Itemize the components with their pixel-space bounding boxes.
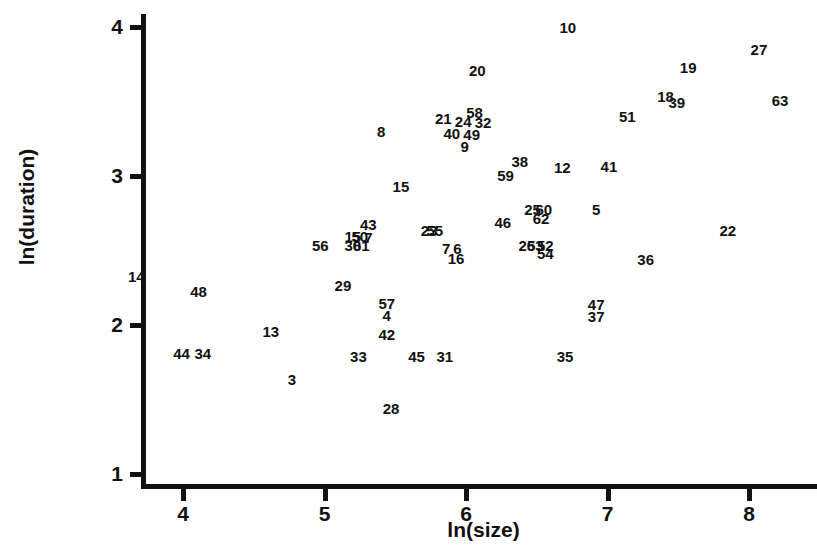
- data-point-label: 4: [383, 307, 391, 322]
- data-point-label: 55: [427, 222, 444, 237]
- x-tick-4: [181, 489, 186, 501]
- data-point-label: 34: [194, 346, 211, 361]
- data-point-label: 9: [460, 139, 468, 154]
- data-point-label: 61: [353, 237, 370, 252]
- scatter-plot-figure: 4321 45678 ln(size) ln(duration) 1027201…: [0, 0, 817, 548]
- data-point-label: 62: [533, 210, 550, 225]
- data-point-label: 31: [436, 349, 453, 364]
- data-point-label: 12: [554, 160, 571, 175]
- data-point-label: 8: [377, 124, 385, 139]
- data-point-label: 19: [680, 60, 697, 75]
- y-tick-label-4: 4: [95, 16, 123, 37]
- data-point-label: 48: [190, 283, 207, 298]
- y-tick-label-2: 2: [95, 314, 123, 335]
- data-point-label: 22: [719, 222, 736, 237]
- data-point-label: 36: [637, 252, 654, 267]
- data-point-label: 20: [469, 63, 486, 78]
- data-point-label: 37: [588, 309, 605, 324]
- data-point-label: 42: [378, 326, 395, 341]
- data-point-label: 41: [601, 158, 618, 173]
- y-tick-label-1: 1: [95, 463, 123, 484]
- y-tick-label-3: 3: [95, 165, 123, 186]
- data-point-label: 46: [494, 215, 511, 230]
- plot-data-area: [141, 14, 817, 489]
- data-point-label: 10: [560, 20, 577, 35]
- x-tick-5: [323, 489, 328, 501]
- data-point-label: 14: [128, 268, 145, 283]
- data-point-label: 5: [592, 201, 600, 216]
- data-point-label: 13: [262, 323, 279, 338]
- data-point-label: 29: [335, 277, 352, 292]
- data-point-label: 44: [173, 346, 190, 361]
- data-point-label: 35: [557, 349, 574, 364]
- data-point-label: 40: [444, 125, 461, 140]
- x-axis-title: ln(size): [0, 518, 817, 542]
- data-point-label: 28: [383, 401, 400, 416]
- data-point-label: 56: [312, 237, 329, 252]
- data-point-label: 21: [435, 110, 452, 125]
- data-point-label: 63: [772, 93, 789, 108]
- data-point-label: 27: [751, 42, 768, 57]
- data-point-label: 3: [288, 371, 296, 386]
- data-point-label: 59: [497, 167, 514, 182]
- x-tick-8: [747, 489, 752, 501]
- y-axis-title: ln(duration): [15, 87, 39, 327]
- data-point-label: 39: [668, 94, 685, 109]
- data-point-label: 51: [619, 109, 636, 124]
- data-point-label: 45: [408, 349, 425, 364]
- data-point-label: 54: [537, 246, 554, 261]
- x-tick-7: [606, 489, 611, 501]
- data-point-label: 15: [393, 179, 410, 194]
- data-point-label: 16: [448, 250, 465, 265]
- data-point-label: 33: [350, 349, 367, 364]
- x-tick-6: [464, 489, 469, 501]
